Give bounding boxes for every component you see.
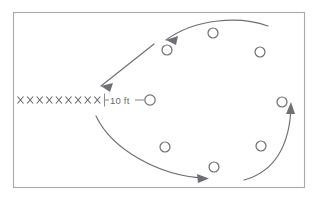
figure-canvas: 10 ft [0,0,321,206]
x-mark [18,97,24,104]
node-upper-right [255,47,265,57]
node-upper-left [162,45,172,55]
arrow-right-arc-path [244,106,291,180]
node-right-lower [256,141,266,151]
x-mark [75,97,81,104]
figure-border [14,13,305,188]
arrow-bottom-arc-head [197,174,209,183]
x-mark [56,97,62,104]
node-circles [160,28,287,172]
x-mark-row [18,97,101,104]
node-dimension-end [145,95,155,105]
dimension-row: 10 ft [18,94,156,107]
arrow-top-arc-head [166,36,178,45]
arrow-diagonal-left [101,44,154,92]
arrow-bottom-arc-path [96,116,204,178]
node-right-upper [277,97,287,107]
x-mark [94,97,100,104]
x-mark [46,97,52,104]
x-mark [85,97,91,104]
node-top-center [208,28,218,38]
arrow-top-arc [166,20,268,45]
x-mark [27,97,33,104]
arrow-right-arc [244,102,295,180]
node-lower-left [160,142,170,152]
figure-root: 10 ft [0,0,321,206]
dimension-label: 10 ft [110,95,130,106]
x-mark [37,97,43,104]
arrow-bottom-arc [96,116,209,183]
arrow-diagonal-left-path [101,44,154,86]
x-mark [66,97,72,104]
arrow-right-arc-head [286,102,295,114]
node-bottom-center [209,162,219,172]
